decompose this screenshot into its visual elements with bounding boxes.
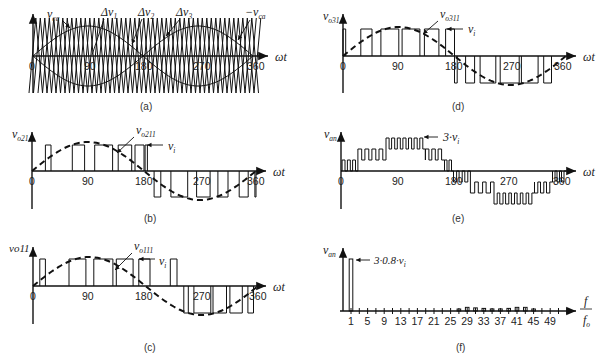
label-dv3: Δv3 [175,5,192,21]
tick-270: 270 [193,60,211,72]
harmonic-bar [349,259,353,311]
tick-1: 1 [348,315,354,327]
y-axis-label: vo31 [323,9,340,25]
x-axis-label: ωt [583,165,595,179]
tick-180: 180 [135,175,153,187]
label-fundamental: vo111 [134,239,153,255]
tick-90: 90 [392,60,404,72]
x-axis-label: ωt [273,280,285,294]
tick-270: 270 [503,60,521,72]
tick-25: 25 [445,315,457,327]
label-fundamental: vo311 [440,7,460,23]
tick-360: 360 [249,290,267,302]
caption-a: (a) [140,101,152,112]
tick-270: 270 [500,175,518,187]
x-axis-label-den: fo [583,313,590,329]
label-vi: vi [159,254,166,270]
spectrum-bars [349,259,535,311]
label-vi: vi [468,22,475,38]
tick-37: 37 [494,315,506,327]
tick-180: 180 [445,60,463,72]
label-peak: 3·vi [442,130,459,146]
panel-c: ωt vo11 0 90 180 270 360 vo111 vi (c) [9,239,285,353]
label-dv1: Δv1 [100,5,117,21]
tick-17: 17 [411,315,423,327]
tick-13: 13 [395,315,407,327]
label-fundamental-amplitude: 3·0.8·vi [373,254,406,269]
tick-360: 360 [554,60,572,72]
tick-90: 90 [82,175,94,187]
tick-360: 360 [247,175,265,187]
label-neg-vca: −vca [245,5,266,21]
tick-90: 90 [84,60,96,72]
x-axis-label-num: f [584,294,589,308]
x-axis-label: ωt [583,50,595,64]
tick-0: 0 [30,290,36,302]
tick-360: 360 [553,175,571,187]
tick-29: 29 [461,315,473,327]
tick-270: 270 [193,175,211,187]
caption-b: (b) [144,213,156,224]
y-axis-label: van [324,127,337,143]
label-fundamental: vo211 [136,123,156,139]
tick-5: 5 [365,315,371,327]
panel-e: ωt van 0 90 180 270 360 3·vi (e) [324,127,595,224]
caption-e: (e) [452,213,464,224]
y-axis-label: vo11 [9,242,30,254]
tick-360: 360 [247,60,265,72]
tick-0: 0 [338,175,344,187]
tick-0: 0 [29,60,35,72]
panel-b: ωt vo21 0 90 180 270 360 vo211 vi (b) [12,123,285,224]
tick-45: 45 [528,315,540,327]
tick-180: 180 [445,175,463,187]
tick-41: 41 [511,315,523,327]
label-vi: vi [168,139,175,155]
tick-270: 270 [193,290,211,302]
tick-21: 21 [428,315,440,327]
tick-9: 9 [381,315,387,327]
caption-c: (c) [144,342,156,353]
tick-49: 49 [544,315,556,327]
caption-f: (f) [456,342,465,353]
tick-180: 180 [135,60,153,72]
tick-180: 180 [135,290,153,302]
tick-90: 90 [82,290,94,302]
label-dv2: Δv2 [137,5,154,21]
fundamental-pointer [423,21,438,34]
y-axis-label: van [323,243,336,259]
panel-a: ωt 0 90 180 270 360 vca Δv1 Δv2 Δv3 −vca… [29,5,287,112]
tick-0: 0 [340,60,346,72]
label-vca: vca [47,7,60,23]
caption-d: (d) [452,101,464,112]
y-axis-label: vo21 [12,127,29,143]
x-axis-label: ωt [273,165,285,179]
panel-f: 15913172125293337414549 van f fo 3·0.8·v… [323,243,592,353]
panel-d: ωt vo31 0 90 180 270 360 vo311 vi (d) [323,7,595,112]
fundamental-pointer [115,253,132,270]
x-axis-label: ωt [275,50,287,64]
tick-33: 33 [478,315,490,327]
tick-90: 90 [392,175,404,187]
tick-0: 0 [29,175,35,187]
